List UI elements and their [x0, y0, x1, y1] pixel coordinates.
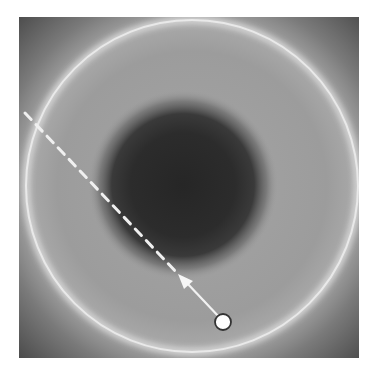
- field-image: [19, 17, 359, 358]
- dark-blob: [88, 90, 278, 280]
- position-marker: [215, 314, 231, 330]
- field-image-panel: [19, 17, 359, 358]
- figure-canvas: [0, 0, 377, 368]
